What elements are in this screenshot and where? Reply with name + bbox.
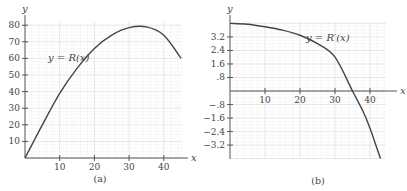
- y-tick-label: 40: [9, 87, 21, 97]
- x-tick-label: 10: [259, 95, 271, 105]
- x-axis-label: x: [400, 85, 406, 96]
- y-tick-label: 30: [9, 103, 21, 113]
- chart-panel-a: xy102030401020304050607080y = R(x)(a): [9, 3, 197, 184]
- y-tick-label: −1.6: [203, 113, 225, 123]
- y-tick-label: −2.4: [203, 127, 225, 137]
- y-tick-label: 10: [9, 136, 21, 146]
- curve-label: y = R′(x): [305, 32, 350, 43]
- grid: [25, 22, 182, 158]
- x-tick-label: 30: [329, 95, 341, 105]
- x-axis-label: x: [191, 152, 197, 163]
- y-tick-label: 80: [9, 20, 21, 30]
- y-tick-label: −.8: [209, 100, 225, 110]
- axes: xy102030401020304050607080: [9, 3, 197, 172]
- figure: xy102030401020304050607080y = R(x)(a) xy…: [0, 0, 407, 191]
- y-tick-label: 2.4: [211, 45, 226, 55]
- x-tick-label: 10: [54, 162, 66, 172]
- y-axis-label: y: [226, 3, 233, 14]
- x-tick-label: 40: [158, 162, 170, 172]
- y-tick-label: 20: [9, 120, 21, 130]
- y-tick-label: 70: [9, 37, 21, 47]
- x-tick-label: 30: [123, 162, 135, 172]
- panel-caption: (a): [93, 173, 106, 184]
- y-tick-label: −3.2: [203, 140, 225, 150]
- y-axis-label: y: [21, 3, 28, 14]
- x-tick-label: 20: [294, 95, 306, 105]
- y-tick-label: 3.2: [211, 32, 225, 42]
- curve-label: y = R(x): [47, 52, 89, 63]
- chart-panel-b: xy102030403.22.41.6.8−.8−1.6−2.4−3.2y = …: [203, 3, 406, 186]
- y-tick-label: .8: [216, 72, 225, 82]
- x-tick-label: 40: [364, 95, 376, 105]
- y-tick-label: 50: [9, 70, 21, 80]
- y-tick-label: 60: [9, 53, 21, 63]
- x-tick-label: 20: [89, 162, 101, 172]
- y-tick-label: 1.6: [211, 59, 226, 69]
- panel-caption: (b): [311, 175, 325, 186]
